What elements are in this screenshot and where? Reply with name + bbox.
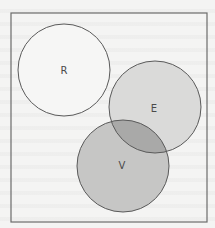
set-label-v: V (119, 160, 126, 171)
set-label-r: R (61, 65, 68, 76)
venn-diagram: R E V (0, 0, 215, 228)
set-label-e: E (151, 103, 157, 114)
